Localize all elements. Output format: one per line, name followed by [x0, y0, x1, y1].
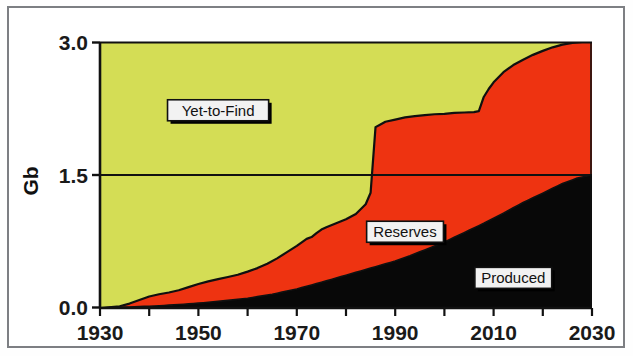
chart-plot-wrapper: 3.0 1.5 0.0 Gb 193019501970199020102030 …: [0, 0, 633, 356]
y-tick-label-1point5: 1.5: [59, 164, 89, 187]
y-tick-label-3: 3.0: [59, 31, 88, 54]
annotation-text: Reserves: [373, 223, 436, 240]
annotation-produced: Produced: [475, 267, 555, 291]
x-tick-label-1970: 1970: [273, 321, 320, 344]
x-tick-labels: 193019501970199020102030: [77, 321, 616, 344]
y-axis-title: Gb: [19, 166, 42, 195]
stacked-area-chart: 3.0 1.5 0.0 Gb 193019501970199020102030 …: [0, 0, 633, 356]
y-tick-label-0: 0.0: [59, 296, 88, 319]
x-tick-label-1950: 1950: [175, 321, 222, 344]
annotation-text: Produced: [481, 269, 545, 286]
chart-screenshot: 3.0 1.5 0.0 Gb 193019501970199020102030 …: [0, 0, 633, 356]
annotation-text: Yet-to-Find: [182, 102, 255, 119]
x-tick-label-1930: 1930: [77, 321, 124, 344]
annotation-yet-to-find: Yet-to-Find: [168, 100, 272, 124]
x-tick-label-2010: 2010: [470, 321, 517, 344]
x-tick-label-1990: 1990: [372, 321, 419, 344]
x-tick-label-2030: 2030: [569, 321, 616, 344]
annotation-reserves: Reserves: [367, 221, 447, 245]
